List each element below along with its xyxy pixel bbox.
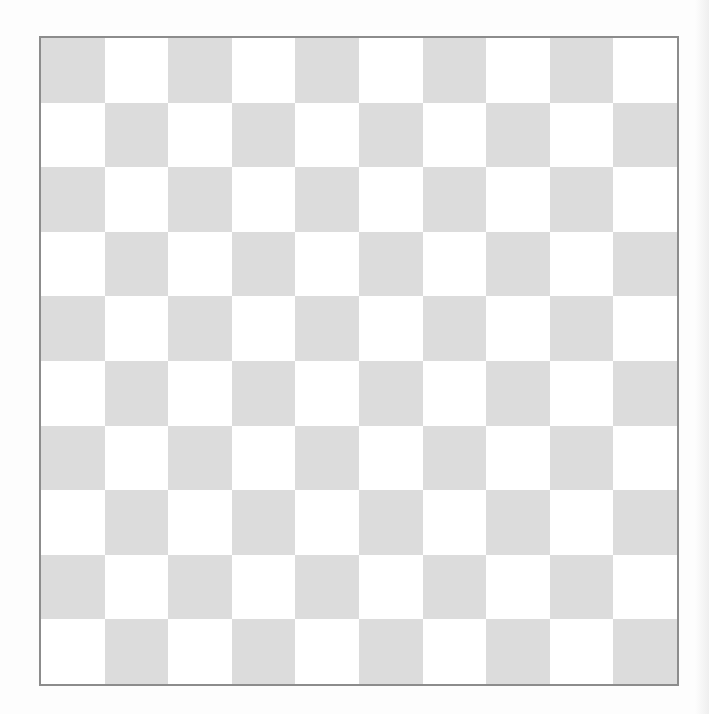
board-square-r6-c9[interactable] (613, 426, 677, 491)
board-square-r7-c0[interactable] (41, 490, 105, 555)
board-square-r0-c8[interactable] (550, 38, 614, 103)
board-square-r2-c0[interactable] (41, 167, 105, 232)
board-square-r3-c6[interactable] (423, 232, 487, 297)
board-square-r9-c7[interactable] (486, 619, 550, 684)
board-square-r9-c5[interactable] (359, 619, 423, 684)
board-square-r6-c6[interactable] (423, 426, 487, 491)
game-board[interactable]: Empty 10x10 draughts board (39, 36, 679, 686)
board-square-r9-c9[interactable] (613, 619, 677, 684)
board-square-r4-c1[interactable] (105, 296, 169, 361)
board-square-r6-c8[interactable] (550, 426, 614, 491)
board-square-r2-c7[interactable] (486, 167, 550, 232)
board-square-r9-c3[interactable] (232, 619, 296, 684)
board-square-r4-c5[interactable] (359, 296, 423, 361)
board-square-r1-c9[interactable] (613, 103, 677, 168)
board-square-r8-c6[interactable] (423, 555, 487, 620)
board-square-r3-c9[interactable] (613, 232, 677, 297)
board-square-r7-c2[interactable] (168, 490, 232, 555)
board-square-r9-c4[interactable] (295, 619, 359, 684)
board-square-r1-c0[interactable] (41, 103, 105, 168)
board-square-r8-c4[interactable] (295, 555, 359, 620)
board-square-r8-c9[interactable] (613, 555, 677, 620)
board-square-r5-c4[interactable] (295, 361, 359, 426)
board-square-r3-c2[interactable] (168, 232, 232, 297)
board-square-r8-c1[interactable] (105, 555, 169, 620)
board-square-r0-c5[interactable] (359, 38, 423, 103)
board-square-r3-c7[interactable] (486, 232, 550, 297)
board-square-r6-c4[interactable] (295, 426, 359, 491)
board-square-r4-c3[interactable] (232, 296, 296, 361)
board-square-r3-c8[interactable] (550, 232, 614, 297)
board-square-r5-c9[interactable] (613, 361, 677, 426)
board-square-r6-c3[interactable] (232, 426, 296, 491)
board-square-r0-c3[interactable] (232, 38, 296, 103)
board-square-r1-c1[interactable] (105, 103, 169, 168)
board-square-r6-c0[interactable] (41, 426, 105, 491)
board-square-r9-c8[interactable] (550, 619, 614, 684)
board-square-r0-c7[interactable] (486, 38, 550, 103)
board-square-r4-c7[interactable] (486, 296, 550, 361)
board-square-r4-c0[interactable] (41, 296, 105, 361)
board-square-r3-c1[interactable] (105, 232, 169, 297)
board-square-r5-c2[interactable] (168, 361, 232, 426)
board-square-r0-c6[interactable] (423, 38, 487, 103)
board-square-r3-c0[interactable] (41, 232, 105, 297)
board-square-r6-c1[interactable] (105, 426, 169, 491)
board-square-r8-c2[interactable] (168, 555, 232, 620)
board-square-r9-c1[interactable] (105, 619, 169, 684)
board-square-r4-c9[interactable] (613, 296, 677, 361)
board-square-r1-c8[interactable] (550, 103, 614, 168)
board-square-r2-c6[interactable] (423, 167, 487, 232)
board-square-r7-c6[interactable] (423, 490, 487, 555)
board-square-r5-c8[interactable] (550, 361, 614, 426)
board-square-r1-c2[interactable] (168, 103, 232, 168)
board-square-r1-c6[interactable] (423, 103, 487, 168)
board-square-r6-c5[interactable] (359, 426, 423, 491)
board-square-r5-c7[interactable] (486, 361, 550, 426)
board-square-r9-c6[interactable] (423, 619, 487, 684)
board-square-r2-c1[interactable] (105, 167, 169, 232)
board-square-r5-c5[interactable] (359, 361, 423, 426)
board-square-r7-c7[interactable] (486, 490, 550, 555)
board-square-r8-c7[interactable] (486, 555, 550, 620)
board-square-r3-c3[interactable] (232, 232, 296, 297)
board-square-r8-c0[interactable] (41, 555, 105, 620)
board-square-r5-c1[interactable] (105, 361, 169, 426)
board-square-r9-c2[interactable] (168, 619, 232, 684)
board-square-r1-c3[interactable] (232, 103, 296, 168)
board-square-r0-c9[interactable] (613, 38, 677, 103)
board-square-r0-c4[interactable] (295, 38, 359, 103)
board-square-r2-c3[interactable] (232, 167, 296, 232)
board-square-r8-c8[interactable] (550, 555, 614, 620)
board-square-r2-c9[interactable] (613, 167, 677, 232)
board-square-r2-c5[interactable] (359, 167, 423, 232)
board-square-r3-c4[interactable] (295, 232, 359, 297)
board-square-r3-c5[interactable] (359, 232, 423, 297)
board-square-r5-c6[interactable] (423, 361, 487, 426)
board-square-r4-c2[interactable] (168, 296, 232, 361)
board-square-r9-c0[interactable] (41, 619, 105, 684)
board-square-r7-c1[interactable] (105, 490, 169, 555)
board-square-r4-c6[interactable] (423, 296, 487, 361)
board-square-r8-c3[interactable] (232, 555, 296, 620)
board-square-r2-c4[interactable] (295, 167, 359, 232)
board-square-r2-c8[interactable] (550, 167, 614, 232)
board-square-r6-c7[interactable] (486, 426, 550, 491)
board-square-r7-c3[interactable] (232, 490, 296, 555)
board-square-r4-c8[interactable] (550, 296, 614, 361)
board-square-r1-c4[interactable] (295, 103, 359, 168)
board-square-r6-c2[interactable] (168, 426, 232, 491)
board-square-r7-c5[interactable] (359, 490, 423, 555)
board-square-r0-c0[interactable] (41, 38, 105, 103)
board-square-r8-c5[interactable] (359, 555, 423, 620)
board-square-r7-c8[interactable] (550, 490, 614, 555)
board-square-r0-c1[interactable] (105, 38, 169, 103)
board-square-r2-c2[interactable] (168, 167, 232, 232)
board-square-r1-c5[interactable] (359, 103, 423, 168)
board-square-r7-c4[interactable] (295, 490, 359, 555)
board-square-r4-c4[interactable] (295, 296, 359, 361)
board-square-r5-c0[interactable] (41, 361, 105, 426)
board-square-r1-c7[interactable] (486, 103, 550, 168)
board-square-r0-c2[interactable] (168, 38, 232, 103)
board-square-r5-c3[interactable] (232, 361, 296, 426)
